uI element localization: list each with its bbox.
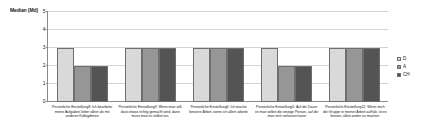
bar-d (329, 48, 346, 102)
x-axis-label: Persönliche Einstellung5: Auf die Dauer … (253, 105, 321, 119)
y-axis-title: Median (Md) (2, 7, 38, 14)
bar-a (74, 66, 91, 102)
bar-ch (227, 48, 244, 102)
legend-label: A (403, 65, 406, 70)
legend-label: CH (403, 73, 410, 78)
bar-group (116, 12, 184, 102)
chart-legend: DACH (397, 57, 410, 78)
y-axis-title-text: Median (Md) (10, 7, 38, 13)
x-axis-label: Persönliche Einstellung8: Ich bearbeite … (48, 105, 116, 119)
grouped-bar-chart: Median (Md) 012345 Persönliche Einstellu… (0, 0, 436, 136)
x-axis-labels: Persönliche Einstellung8: Ich bearbeite … (48, 105, 389, 119)
legend-swatch-icon (397, 73, 401, 77)
bar-group (252, 12, 320, 102)
x-axis-label: Persönliche Einstellung12: Wenn mich die… (321, 105, 389, 119)
bar-ch (91, 66, 108, 102)
legend-item-ch[interactable]: CH (397, 73, 410, 78)
legend-swatch-icon (397, 57, 401, 61)
bar-ch (295, 66, 312, 102)
bar-groups (48, 12, 388, 102)
legend-item-a[interactable]: A (397, 65, 410, 70)
bar-a (278, 66, 295, 102)
bar-a (346, 48, 363, 102)
bar-group (184, 12, 252, 102)
legend-label: D (403, 57, 406, 62)
x-axis-label: Persönliche Einstellung6: Ich mache bess… (184, 105, 252, 119)
bar-group (320, 12, 388, 102)
bar-d (125, 48, 142, 102)
plot-area: 012345 (47, 12, 388, 102)
legend-swatch-icon (397, 65, 401, 69)
legend-item-d[interactable]: D (397, 57, 410, 62)
bar-a (142, 48, 159, 102)
bar-d (261, 48, 278, 102)
x-axis-label: Persönliche Einstellung9: Wenn man will,… (116, 105, 184, 119)
bar-d (193, 48, 210, 102)
bar-a (210, 48, 227, 102)
bar-group (48, 12, 116, 102)
bar-ch (363, 48, 380, 102)
bar-d (57, 48, 74, 102)
bar-ch (159, 48, 176, 102)
